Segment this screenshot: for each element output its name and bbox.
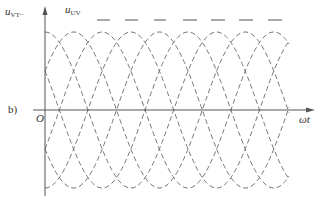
x-axis-label: ωt [299, 114, 310, 125]
axes [33, 6, 315, 196]
x-axis-arrow-icon [306, 108, 315, 113]
origin-label: O [36, 113, 44, 124]
y-axis-label: uVT− [5, 6, 24, 19]
panel-label: b) [8, 104, 17, 115]
y-axis-label-sub: VT− [11, 11, 24, 19]
waveform-figure [0, 0, 323, 210]
y-axis-arrow-icon [43, 6, 48, 15]
series-label: uUV [65, 4, 81, 17]
series-label-sub: UV [71, 9, 81, 17]
